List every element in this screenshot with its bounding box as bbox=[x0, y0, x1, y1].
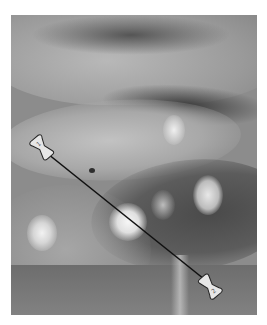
measurement-annotation: 1 2 bbox=[0, 0, 267, 325]
measurement-line bbox=[48, 154, 204, 279]
